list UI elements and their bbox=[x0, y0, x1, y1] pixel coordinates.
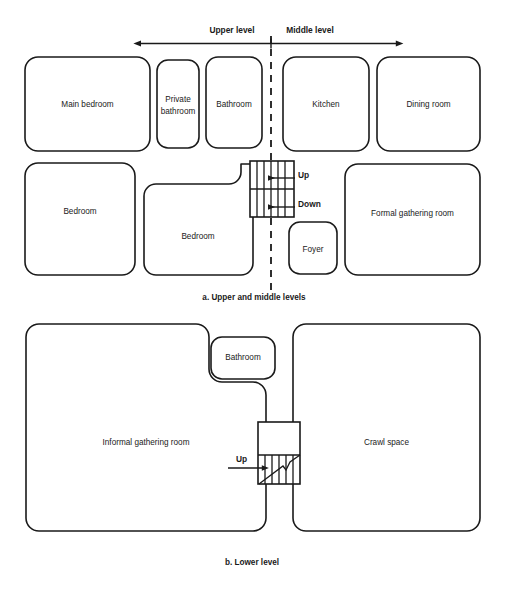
staircase-up-label: Up bbox=[298, 170, 309, 180]
room-crawl-space bbox=[293, 324, 480, 531]
caption-panel-a: a. Upper and middle levels bbox=[202, 293, 306, 302]
upper-level-label: Upper level bbox=[209, 25, 254, 35]
room-label-bathroom-lower: Bathroom bbox=[225, 353, 261, 362]
room-label-formal-gathering-room: Formal gathering room bbox=[371, 209, 454, 218]
room-label-private-bathroom-line2: bathroom bbox=[161, 107, 196, 116]
panel-a-rooms: Main bedroom Private bathroom Private ba… bbox=[0, 0, 480, 275]
staircase-lower-up-label: Up bbox=[236, 454, 247, 464]
staircase-upper: Up Down bbox=[250, 161, 321, 217]
middle-level-label: Middle level bbox=[286, 25, 333, 35]
floorplan-canvas: Upper level Middle level Main bedroom Pr… bbox=[0, 0, 509, 589]
room-label-bathroom-upper: Bathroom bbox=[216, 100, 252, 109]
room-bedroom-middle bbox=[144, 164, 253, 275]
caption-panel-b: b. Lower level bbox=[225, 558, 279, 567]
room-label-private-bathroom-line1: Private bbox=[165, 95, 191, 104]
room-label-crawl-space: Crawl space bbox=[364, 438, 409, 447]
room-formal-gathering-room bbox=[345, 164, 480, 275]
level-scale-bar: Upper level Middle level bbox=[141, 25, 396, 48]
staircase-down-label: Down bbox=[298, 199, 321, 209]
room-bedroom-left bbox=[25, 163, 135, 275]
room-label-bedroom-left: Bedroom bbox=[63, 207, 96, 216]
panel-b-rooms: Informal gathering room Bathroom Crawl s… bbox=[26, 324, 480, 531]
room-label-main-bedroom: Main bedroom bbox=[61, 100, 114, 109]
room-label-kitchen: Kitchen bbox=[312, 100, 340, 109]
room-label-foyer: Foyer bbox=[303, 245, 324, 254]
room-label-dining-room: Dining room bbox=[406, 100, 450, 109]
room-label-informal-gathering-room: Informal gathering room bbox=[103, 438, 190, 447]
room-label-bedroom-middle: Bedroom bbox=[181, 232, 214, 241]
floorplan-diagram: Upper level Middle level Main bedroom Pr… bbox=[0, 0, 509, 589]
